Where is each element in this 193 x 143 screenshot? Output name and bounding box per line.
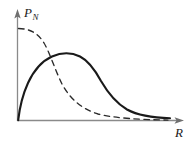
- y-axis-label-symbol: P: [24, 5, 32, 20]
- dashed-curve: [19, 29, 169, 121]
- y-axis: [14, 9, 20, 121]
- y-axis-label-subscript: N: [32, 12, 38, 22]
- figure-container: PN R: [0, 0, 193, 143]
- solid-curve: [18, 53, 170, 120]
- y-axis-label: PN: [24, 6, 38, 22]
- x-axis-label: R: [175, 126, 183, 139]
